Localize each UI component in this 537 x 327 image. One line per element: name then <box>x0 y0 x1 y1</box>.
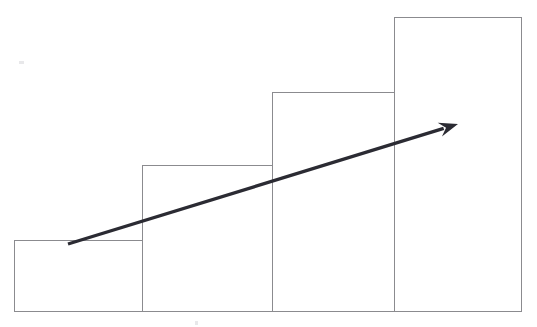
bar-3[interactable] <box>273 93 395 312</box>
scan-speck-top-left <box>19 61 24 64</box>
scan-speck-bottom <box>195 321 198 325</box>
bar-1[interactable] <box>15 241 143 312</box>
bar-chart-figure <box>0 0 537 327</box>
chart-canvas <box>0 0 537 327</box>
bars-group <box>15 18 522 312</box>
bar-4[interactable] <box>395 18 522 312</box>
